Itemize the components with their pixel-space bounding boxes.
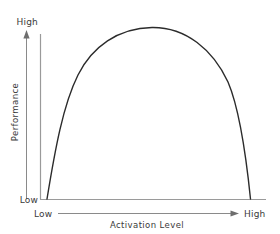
x-axis-high-label: High	[244, 209, 266, 219]
y-axis-low-label: Low	[20, 195, 38, 205]
x-axis-arrow-head-icon	[231, 210, 240, 216]
x-axis-low-label: Low	[34, 209, 52, 219]
performance-curve	[47, 27, 251, 199]
y-axis-title: Performance	[10, 83, 20, 141]
y-axis-high-label: High	[17, 17, 39, 27]
y-axis-arrow-head-icon	[23, 30, 29, 39]
chart-figure: High Low Performance Low High Activation…	[0, 0, 280, 234]
x-axis-title: Activation Level	[110, 220, 184, 230]
chart-canvas: High Low Performance Low High Activation…	[0, 0, 280, 234]
